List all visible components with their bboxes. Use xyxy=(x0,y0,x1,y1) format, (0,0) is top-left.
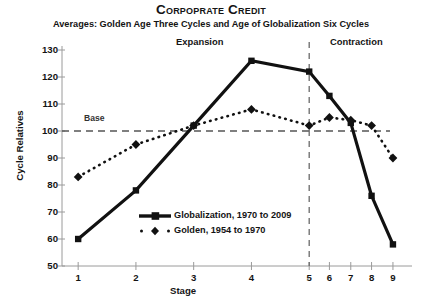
legend-dotted-line-swatch xyxy=(138,225,172,237)
chart-legend: Globalization, 1970 to 2009Golden, 1954 … xyxy=(138,208,291,238)
marker-globalization-stage-9 xyxy=(390,241,396,247)
marker-globalization-stage-2 xyxy=(133,187,139,193)
series-line-golden xyxy=(78,109,393,176)
marker-golden-stage-6 xyxy=(325,113,334,122)
legend-label: Globalization, 1970 to 2009 xyxy=(174,211,291,220)
marker-globalization-stage-6 xyxy=(326,93,332,99)
legend-solid-line-swatch xyxy=(138,210,172,222)
marker-globalization-stage-8 xyxy=(368,193,374,199)
marker-globalization-stage-5 xyxy=(306,68,312,74)
legend-item-globalization[interactable]: Globalization, 1970 to 2009 xyxy=(138,208,291,223)
legend-label: Golden, 1954 to 1970 xyxy=(174,226,265,235)
legend-item-golden[interactable]: Golden, 1954 to 1970 xyxy=(138,223,291,238)
plot-area xyxy=(0,0,422,305)
marker-golden-stage-4 xyxy=(247,105,256,114)
marker-golden-stage-9 xyxy=(389,154,398,163)
marker-globalization-stage-1 xyxy=(75,236,81,242)
chart-container: Corpoprate Credit Averages: Golden Age T… xyxy=(0,0,422,305)
marker-globalization-stage-4 xyxy=(248,58,254,64)
marker-golden-stage-8 xyxy=(367,121,376,130)
marker-golden-stage-1 xyxy=(74,173,83,182)
marker-golden-stage-2 xyxy=(132,140,141,149)
base-line-label: Base xyxy=(84,113,105,123)
marker-golden-stage-5 xyxy=(305,121,314,130)
